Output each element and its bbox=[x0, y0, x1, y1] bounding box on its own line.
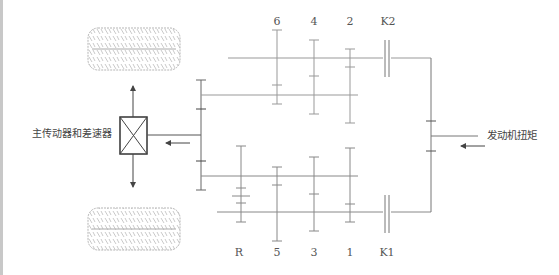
gear-label-5: 5 bbox=[274, 247, 281, 258]
clutch-k1 bbox=[383, 195, 391, 233]
gear-label-4: 4 bbox=[311, 16, 318, 27]
differential-box bbox=[120, 117, 147, 154]
clutch-label-k1: K1 bbox=[379, 247, 394, 258]
gear-label-3: 3 bbox=[311, 247, 318, 258]
gear-R bbox=[232, 146, 250, 222]
tire-bottom-icon bbox=[88, 208, 180, 250]
gear-1 bbox=[345, 148, 355, 222]
gear-label-6: 6 bbox=[274, 16, 281, 27]
gear-4 bbox=[309, 40, 319, 114]
differential-label: 主传动器和差速器 bbox=[32, 129, 112, 139]
engine-torque-label: 发动机扭矩 bbox=[487, 130, 537, 141]
gear-5 bbox=[272, 167, 282, 241]
gear-label-r: R bbox=[235, 247, 243, 258]
gear-6 bbox=[272, 30, 282, 104]
tire-top-icon bbox=[88, 28, 180, 70]
gear-label-1: 1 bbox=[347, 247, 354, 258]
gear-2 bbox=[345, 49, 355, 123]
engine-input-shaft bbox=[426, 58, 478, 212]
clutch-k2 bbox=[383, 40, 391, 77]
gear-3 bbox=[309, 157, 319, 231]
clutch-label-k2: K2 bbox=[380, 16, 395, 27]
gear-label-2: 2 bbox=[347, 16, 354, 27]
